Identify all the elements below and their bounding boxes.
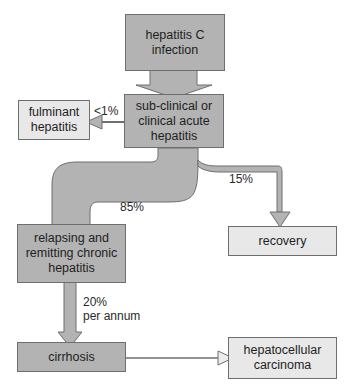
- node-chronic-hepatitis: relapsing and remitting chronic hepatiti…: [17, 224, 126, 283]
- node-fulminant-hepatitis: fulminant hepatitis: [18, 100, 90, 140]
- edge-label-cirrhosis-rate: 20% per annum: [83, 295, 140, 323]
- edge-label-line: 20%: [83, 295, 140, 309]
- node-label: relapsing and remitting chronic hepatiti…: [22, 231, 122, 276]
- node-label: sub-clinical or clinical acute hepatitis: [126, 99, 222, 144]
- node-label: cirrhosis: [48, 350, 95, 365]
- node-hepatocellular-carcinoma: hepatocellular carcinoma: [228, 337, 337, 379]
- arrow-acute-to-recovery: [198, 160, 282, 212]
- node-label: hepatocellular carcinoma: [233, 343, 333, 373]
- node-recovery: recovery: [228, 226, 337, 256]
- edge-label-line: per annum: [83, 309, 140, 323]
- node-hepatitis-c-infection: hepatitis C infection: [125, 14, 225, 71]
- node-acute-hepatitis: sub-clinical or clinical acute hepatitis: [124, 94, 224, 148]
- node-cirrhosis: cirrhosis: [17, 342, 126, 372]
- edge-label-fulminant: <1%: [94, 104, 118, 118]
- node-label: recovery: [259, 234, 307, 249]
- edge-label-recovery: 15%: [229, 172, 253, 186]
- node-label: hepatitis C infection: [135, 28, 215, 58]
- node-label: fulminant hepatitis: [21, 105, 87, 135]
- arrow-chronic-to-cirrhosis: [58, 282, 82, 347]
- edge-label-chronic: 85%: [120, 200, 144, 214]
